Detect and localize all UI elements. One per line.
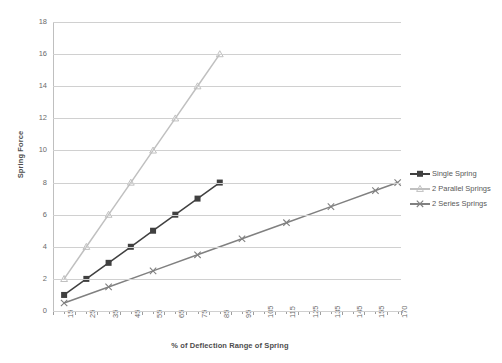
y-tick-label: 18 xyxy=(19,18,47,26)
y-tick-label: 8 xyxy=(19,179,47,187)
gridline xyxy=(53,279,401,280)
data-point-marker xyxy=(239,236,245,242)
legend-item-label: 2 Series Springs xyxy=(432,200,487,208)
data-point-marker xyxy=(283,219,289,225)
y-tick-label: 12 xyxy=(19,114,47,122)
y-tick-label: 2 xyxy=(19,275,47,283)
gridline xyxy=(53,183,401,184)
y-tick-label: 16 xyxy=(19,50,47,58)
gridline xyxy=(53,247,401,248)
gridline xyxy=(53,215,401,216)
gridline xyxy=(53,150,401,151)
x-axis-title: % of Deflection Range of Spring xyxy=(60,341,400,350)
gridline xyxy=(53,311,401,312)
legend-marker-icon xyxy=(410,198,430,209)
gridline xyxy=(53,54,401,55)
legend: Single Spring2 Parallel Springs2 Series … xyxy=(410,166,502,211)
legend-item-2-parallel-springs[interactable]: 2 Parallel Springs xyxy=(410,181,502,196)
y-tick-label: 14 xyxy=(19,82,47,90)
data-point-marker xyxy=(150,268,156,274)
data-point-marker xyxy=(195,196,201,202)
gridline xyxy=(53,86,401,87)
series-line xyxy=(64,183,398,303)
y-tick-label: 10 xyxy=(19,146,47,154)
legend-marker-icon xyxy=(410,168,430,179)
data-point-marker xyxy=(61,300,67,306)
series-layer xyxy=(53,22,401,311)
data-point-marker xyxy=(194,252,200,258)
data-point-marker xyxy=(417,171,423,177)
legend-item-label: Single Spring xyxy=(432,170,477,178)
legend-item-single-spring[interactable]: Single Spring xyxy=(410,166,502,181)
data-point-marker xyxy=(61,292,67,298)
x-tick-mark xyxy=(401,311,402,315)
gridline xyxy=(53,22,401,23)
spring-force-line-chart: Spring Force 024681012141618 15253545556… xyxy=(0,0,502,363)
series-single-spring xyxy=(61,180,223,298)
data-point-marker xyxy=(417,185,424,191)
data-point-marker xyxy=(106,260,112,266)
y-tick-label: 0 xyxy=(19,307,47,315)
gridline xyxy=(53,118,401,119)
data-point-marker xyxy=(328,203,334,209)
data-point-marker xyxy=(372,187,378,193)
series-2-series-springs xyxy=(61,179,401,306)
data-point-marker xyxy=(417,201,423,207)
y-tick-label: 6 xyxy=(19,211,47,219)
legend-marker-icon xyxy=(410,183,430,194)
data-point-marker xyxy=(150,228,156,234)
plot-area xyxy=(53,22,401,311)
legend-item-label: 2 Parallel Springs xyxy=(432,185,491,193)
y-tick-label: 4 xyxy=(19,243,47,251)
data-point-marker xyxy=(105,284,111,290)
legend-item-2-series-springs[interactable]: 2 Series Springs xyxy=(410,196,502,211)
